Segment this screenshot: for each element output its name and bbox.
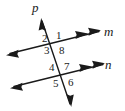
angle-label-1: 1 — [56, 30, 62, 41]
line-m-stroke — [10, 32, 99, 54]
line-label-m: m — [104, 25, 113, 38]
angle-label-2: 2 — [42, 33, 48, 44]
line-n-left-arrowhead — [10, 83, 23, 91]
geometry-diagram: m n p 1 2 3 8 4 7 5 6 — [0, 0, 125, 111]
angle-label-4: 4 — [49, 62, 55, 73]
angle-label-7: 7 — [64, 61, 70, 72]
line-label-n: n — [105, 58, 112, 71]
line-p-top-arrowhead — [39, 18, 47, 31]
angle-label-8: 8 — [59, 45, 65, 56]
line-label-p: p — [32, 1, 39, 14]
angle-label-5: 5 — [53, 78, 59, 89]
line-p-bottom-arrowhead — [66, 94, 74, 107]
angle-label-6: 6 — [68, 77, 74, 88]
line-m-left-arrowhead — [6, 50, 19, 58]
angle-label-3: 3 — [44, 45, 50, 56]
